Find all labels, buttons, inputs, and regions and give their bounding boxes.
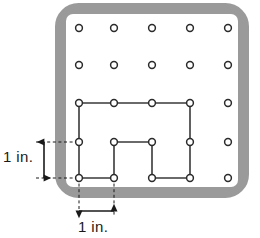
geoboard-figure: 1 in. 1 in. [0,0,260,238]
peg-r3-c3 [187,139,194,146]
peg-r2-c3 [187,100,194,107]
peg-r1-c3 [187,62,194,69]
peg-r0-c4 [225,25,232,32]
horizontal-dimension-label: 1 in. [78,219,108,234]
peg-r1-c1 [111,62,118,69]
peg-r3-c4 [225,139,232,146]
peg-r4-c3 [187,175,194,182]
peg-r1-c2 [149,62,156,69]
peg-r4-c0 [76,175,83,182]
peg-r3-c0 [76,139,83,146]
peg-r0-c1 [111,25,118,32]
peg-r4-c4 [225,175,232,182]
peg-r1-c4 [225,62,232,69]
peg-r0-c0 [76,25,83,32]
peg-r2-c0 [76,100,83,107]
peg-r0-c2 [149,25,156,32]
peg-r2-c1 [111,100,118,107]
geoboard-diagram [0,0,260,238]
peg-r0-c3 [187,25,194,32]
peg-r2-c2 [149,100,156,107]
peg-r1-c0 [76,62,83,69]
peg-r3-c1 [111,139,118,146]
vertical-dimension-label: 1 in. [3,149,33,164]
peg-r3-c2 [149,139,156,146]
peg-r4-c1 [111,175,118,182]
peg-r4-c2 [149,175,156,182]
peg-r2-c4 [225,100,232,107]
